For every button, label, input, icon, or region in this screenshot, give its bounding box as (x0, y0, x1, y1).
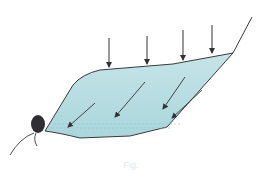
outlet-icon (31, 115, 45, 133)
water-body (45, 53, 233, 138)
outlet-wire (35, 133, 37, 146)
slope-line (233, 17, 252, 53)
outlet-cable (10, 133, 34, 155)
figure-caption: Fig. (100, 160, 162, 170)
basin-diagram (0, 0, 262, 174)
